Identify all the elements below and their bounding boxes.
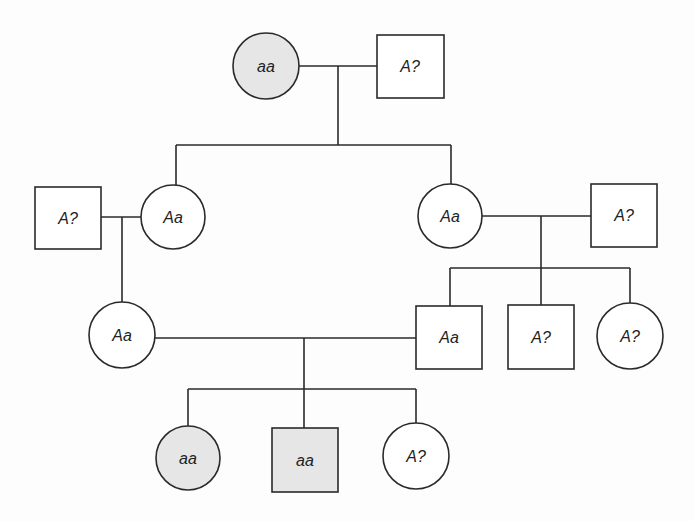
genotype-label: aa (296, 452, 314, 469)
individual-I-1: aa (233, 33, 299, 99)
individual-IV-1: aa (156, 426, 220, 490)
genotype-label: A? (57, 210, 78, 227)
genotype-label: Aa (162, 209, 183, 226)
individual-II-3: Aa (418, 184, 482, 248)
genotype-label: A? (399, 58, 420, 75)
genotype-label: A? (619, 328, 640, 345)
individual-II-4: A? (591, 184, 657, 247)
genotype-label: aa (257, 58, 275, 75)
genotype-label: A? (530, 329, 551, 346)
individual-IV-2: aa (272, 428, 338, 492)
individual-I-2: A? (377, 35, 444, 98)
individual-III-1: Aa (89, 302, 155, 368)
individual-II-1: A? (35, 187, 101, 249)
genotype-label: Aa (439, 208, 460, 225)
pedigree-chart: aa A? A? Aa Aa A? Aa Aa A? A? aa (0, 0, 695, 521)
individual-II-2: Aa (141, 185, 205, 249)
genotype-label: Aa (111, 327, 132, 344)
individual-IV-3: A? (383, 423, 449, 489)
genotype-label: Aa (438, 329, 459, 346)
individual-III-3: A? (508, 305, 574, 369)
genotype-label: A? (405, 448, 426, 465)
genotype-label: A? (613, 207, 634, 224)
individual-III-4: A? (597, 303, 663, 369)
genotype-label: aa (179, 450, 197, 467)
individual-III-2: Aa (416, 306, 482, 369)
